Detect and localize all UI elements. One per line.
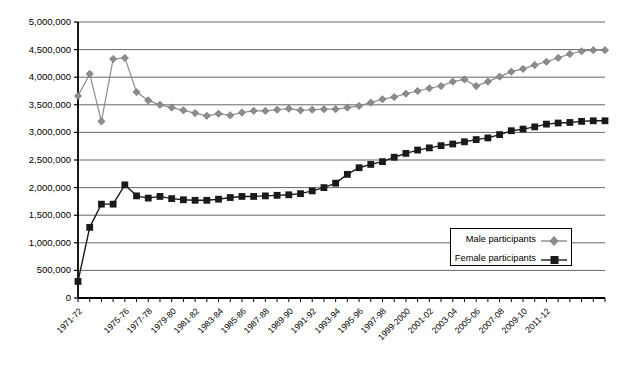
y-axis-label: 2,000,000: [29, 182, 71, 193]
y-axis-label: 2,500,000: [29, 154, 71, 165]
square-marker-icon: [541, 252, 567, 264]
chart-container: 0500,0001,000,0001,500,0002,000,0002,500…: [0, 0, 624, 368]
y-axis-label: 0: [66, 292, 71, 303]
y-axis-label: 500,000: [37, 264, 71, 275]
legend-label-female: Female participants: [455, 253, 536, 263]
y-axis-label: 1,000,000: [29, 237, 71, 248]
diamond-marker-icon: [541, 233, 567, 245]
legend-label-male: Male participants: [466, 234, 536, 244]
y-axis-label: 4,500,000: [29, 44, 71, 55]
y-axis-label: 4,000,000: [29, 71, 71, 82]
y-axis-label: 1,500,000: [29, 209, 71, 220]
chart-legend: Male participants Female participants: [450, 228, 572, 266]
legend-item-female: Female participants: [451, 248, 571, 267]
y-axis-label: 3,000,000: [29, 126, 71, 137]
legend-item-male: Male participants: [451, 229, 571, 248]
y-axis-label: 5,000,000: [29, 16, 71, 27]
y-axis-label: 3,500,000: [29, 99, 71, 110]
